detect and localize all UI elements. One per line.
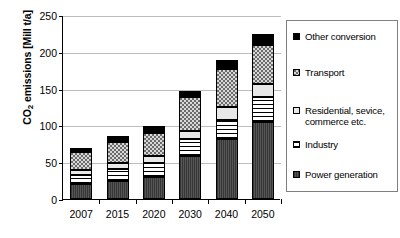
bar-segment-power-generation-2030[interactable] (179, 156, 201, 199)
bar-segment-transport-2007[interactable] (70, 152, 92, 170)
legend-label: Power generation (305, 169, 378, 180)
bar-segment-residential-sevice-commerce-etc-2015[interactable] (107, 163, 129, 169)
bar-2040[interactable] (216, 15, 238, 199)
bar-segment-transport-2020[interactable] (143, 133, 165, 157)
legend-item-residential-sevice-commerce-etc[interactable]: Residential, sevice, commerce etc. (293, 105, 394, 127)
bar-segment-industry-2007[interactable] (70, 175, 92, 185)
legend-item-power-generation[interactable]: Power generation (293, 169, 394, 180)
x-tick-label-2020: 2020 (142, 208, 165, 220)
bar-segment-industry-2040[interactable] (216, 120, 238, 139)
gridline-100 (63, 126, 281, 127)
y-tick-label-250: 250 (39, 10, 57, 22)
bar-2020[interactable] (143, 15, 165, 199)
bar-segment-transport-2015[interactable] (107, 142, 129, 163)
bar-segment-power-generation-2015[interactable] (107, 181, 129, 199)
legend-swatch-icon (293, 33, 300, 40)
legend-swatch-icon (293, 69, 300, 76)
bar-segment-residential-sevice-commerce-etc-2030[interactable] (179, 131, 201, 139)
y-tick-mark-50 (59, 163, 63, 164)
legend-label: Residential, sevice, commerce etc. (305, 105, 394, 127)
bar-segment-industry-2020[interactable] (143, 163, 165, 177)
y-axis-title-suffix: emissions [Mill t/a] (21, 10, 33, 105)
plot-area: 050100150200250200720152020203020402050 (62, 16, 280, 200)
y-tick-label-100: 100 (39, 120, 57, 132)
y-axis-title-subscript: 2 (26, 105, 35, 109)
y-tick-mark-200 (59, 53, 63, 54)
bar-segment-other-conversion-2007[interactable] (70, 148, 92, 152)
y-tick-mark-0 (59, 200, 63, 201)
x-tick-label-2040: 2040 (215, 208, 238, 220)
bar-segment-industry-2050[interactable] (252, 97, 274, 122)
bar-segment-other-conversion-2015[interactable] (107, 136, 129, 142)
y-tick-label-50: 50 (45, 157, 57, 169)
x-tick-mark-2007 (99, 199, 100, 204)
legend-item-industry[interactable]: Industry (293, 139, 394, 150)
bar-segment-residential-sevice-commerce-etc-2050[interactable] (252, 84, 274, 97)
bar-segment-residential-sevice-commerce-etc-2040[interactable] (216, 107, 238, 120)
x-tick-label-2015: 2015 (106, 208, 129, 220)
legend-item-transport[interactable]: Transport (293, 67, 394, 78)
bar-segment-other-conversion-2030[interactable] (179, 91, 201, 98)
y-axis-title: CO2 emissions [Mill t/a] (22, 0, 33, 153)
legend-item-other-conversion[interactable]: Other conversion (293, 31, 394, 42)
bar-segment-power-generation-2050[interactable] (252, 122, 274, 199)
x-tick-label-2050: 2050 (251, 208, 274, 220)
bar-2015[interactable] (107, 15, 129, 199)
legend-label: Industry (305, 139, 338, 150)
bar-segment-industry-2030[interactable] (179, 139, 201, 155)
x-tick-label-2007: 2007 (69, 208, 92, 220)
y-tick-label-150: 150 (39, 84, 57, 96)
bar-segment-residential-sevice-commerce-etc-2020[interactable] (143, 156, 165, 163)
legend-swatch-icon (293, 107, 300, 114)
bar-segment-other-conversion-2020[interactable] (143, 126, 165, 133)
bar-segment-transport-2030[interactable] (179, 97, 201, 131)
bar-2007[interactable] (70, 15, 92, 199)
gridline-50 (63, 163, 281, 164)
x-tick-mark-2050 (281, 199, 282, 204)
y-axis-title-prefix: CO (21, 109, 33, 125)
legend-swatch-icon (293, 171, 300, 178)
bar-2030[interactable] (179, 15, 201, 199)
bar-segment-transport-2040[interactable] (216, 69, 238, 107)
x-tick-mark-2020 (172, 199, 173, 204)
bar-segment-power-generation-2020[interactable] (143, 177, 165, 199)
bar-segment-residential-sevice-commerce-etc-2007[interactable] (70, 170, 92, 175)
gridline-200 (63, 53, 281, 54)
bar-segment-industry-2015[interactable] (107, 169, 129, 181)
y-tick-label-0: 0 (51, 194, 57, 206)
bar-segment-power-generation-2007[interactable] (70, 184, 92, 199)
bar-2050[interactable] (252, 15, 274, 199)
y-tick-mark-150 (59, 90, 63, 91)
legend-swatch-icon (293, 141, 300, 148)
y-tick-mark-250 (59, 16, 63, 17)
bar-segment-other-conversion-2040[interactable] (216, 60, 238, 70)
bar-segment-transport-2050[interactable] (252, 45, 274, 84)
legend-label: Other conversion (305, 31, 376, 42)
co2-emissions-stacked-bar-chart: CO2 emissions [Mill t/a] 050100150200250… (0, 0, 400, 238)
bar-segment-other-conversion-2050[interactable] (252, 34, 274, 45)
y-tick-mark-100 (59, 126, 63, 127)
x-tick-mark-2040 (245, 199, 246, 204)
y-tick-label-200: 200 (39, 47, 57, 59)
legend-label: Transport (305, 67, 344, 78)
chart-legend: Other conversionTransportResidential, se… (286, 20, 398, 192)
x-tick-mark-2030 (208, 199, 209, 204)
gridline-250 (63, 16, 281, 17)
x-tick-mark-2015 (136, 199, 137, 204)
gridline-150 (63, 90, 281, 91)
x-tick-label-2030: 2030 (178, 208, 201, 220)
bar-segment-power-generation-2040[interactable] (216, 139, 238, 199)
